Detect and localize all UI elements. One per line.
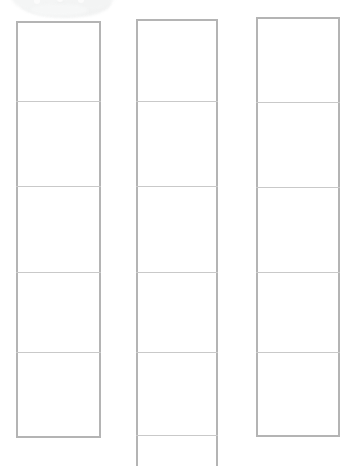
smudge-speck (78, 0, 84, 3)
drawing-canvas (0, 0, 347, 466)
column-cell[interactable] (16, 21, 101, 101)
smudge-speck (57, 0, 63, 2)
cell-divider (16, 272, 101, 273)
column-frame-3[interactable] (256, 17, 340, 437)
column-cell[interactable] (136, 101, 218, 186)
cell-divider (16, 101, 101, 102)
column-cell[interactable] (256, 187, 340, 272)
column-cell[interactable] (256, 102, 340, 187)
cell-divider (16, 352, 101, 353)
smudge-blob-lobe-left (12, 0, 58, 10)
cell-divider (136, 272, 218, 273)
column-cell[interactable] (136, 352, 218, 435)
cell-divider (256, 187, 340, 188)
column-cell[interactable] (256, 352, 340, 437)
cell-divider (256, 272, 340, 273)
cell-divider (16, 186, 101, 187)
column-cell[interactable] (136, 19, 218, 101)
cell-divider (256, 352, 340, 353)
column-cell[interactable] (16, 101, 101, 186)
column-frame-1[interactable] (16, 21, 101, 438)
column-cell[interactable] (16, 272, 101, 352)
column-cell[interactable] (136, 186, 218, 272)
cell-divider (136, 186, 218, 187)
smudge-blob-base (30, 4, 88, 16)
column-cell[interactable] (136, 272, 218, 352)
smudge-blob-lobe-right (62, 0, 114, 10)
column-cell[interactable] (256, 17, 340, 102)
column-cell[interactable] (16, 352, 101, 438)
column-cell[interactable] (16, 186, 101, 272)
column-frame-2[interactable] (136, 19, 218, 466)
cell-divider (256, 102, 340, 103)
column-cell[interactable] (136, 435, 218, 466)
cell-divider (136, 352, 218, 353)
smudge-speck (34, 0, 40, 4)
cell-divider (136, 101, 218, 102)
cell-divider (136, 435, 218, 436)
smudge-blob (19, 0, 111, 18)
column-cell[interactable] (256, 272, 340, 352)
